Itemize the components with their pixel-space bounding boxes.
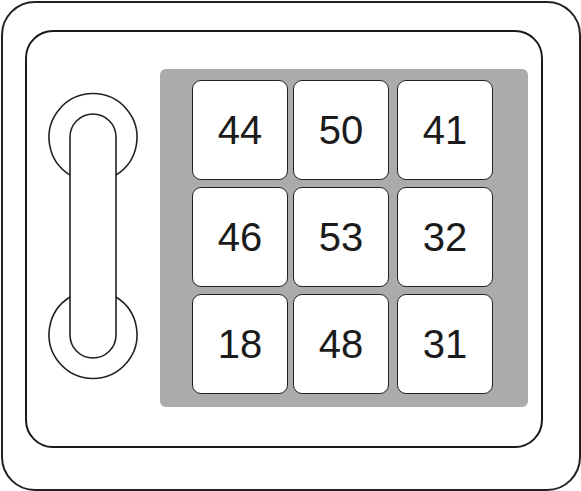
key-r2-c3[interactable]: 32 (397, 187, 493, 287)
key-r3-c1[interactable]: 18 (192, 294, 288, 394)
keypad: 44 50 41 46 53 32 18 48 31 (160, 69, 528, 407)
key-r1-c2[interactable]: 50 (293, 80, 389, 180)
key-r2-c1[interactable]: 46 (192, 187, 288, 287)
key-r3-c3[interactable]: 31 (397, 294, 493, 394)
key-r2-c2[interactable]: 53 (293, 187, 389, 287)
handle-icon (49, 93, 137, 378)
key-r3-c2[interactable]: 48 (293, 294, 389, 394)
key-r1-c1[interactable]: 44 (192, 80, 288, 180)
key-r1-c3[interactable]: 41 (397, 80, 493, 180)
